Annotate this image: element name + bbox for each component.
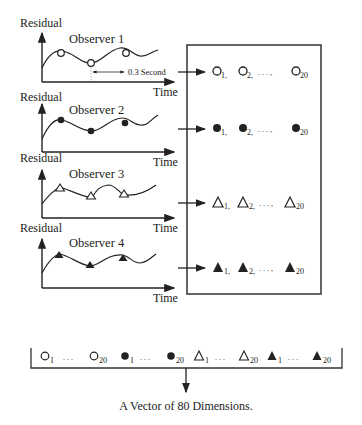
x-axis-label: Time: [153, 221, 178, 235]
subscript: 20: [99, 356, 107, 365]
box-row-filled-circles: 1, 2, . . . , 20: [213, 124, 308, 137]
x-axis-label: Time: [153, 291, 178, 305]
y-axis-label: Residual: [20, 151, 63, 165]
observer-1-plot: Residual Observer 1 0.3 Second Time: [20, 16, 178, 99]
subscript: 1,: [221, 128, 227, 137]
open-triangle-icon: [213, 197, 223, 207]
filled-circle-icon: [88, 128, 95, 135]
filled-circle-icon: [239, 124, 247, 132]
open-circle-icon: [90, 352, 98, 360]
ellipsis: . . . ,: [259, 199, 273, 208]
open-triangle-icon: [285, 197, 295, 207]
subscript: 20: [323, 356, 331, 365]
subscript: 20: [296, 202, 304, 211]
subscript: 2,: [249, 202, 255, 211]
subscript: 1,: [224, 267, 230, 276]
observer-title: Observer 3: [69, 167, 124, 181]
filled-triangle-icon: [213, 262, 223, 272]
subscript: 20: [296, 267, 304, 276]
filled-circle-icon: [122, 120, 129, 127]
feature-vector-diagram: Residual Observer 1 0.3 Second Time Resi…: [0, 0, 362, 425]
ellipsis: . . .: [288, 353, 298, 362]
filled-triangle-icon: [238, 262, 248, 272]
filled-circle-icon: [167, 352, 175, 360]
ellipsis: . . .: [215, 353, 225, 362]
subscript: 2,: [247, 71, 253, 80]
y-axis-label: Residual: [20, 90, 63, 104]
ellipsis: . . . ,: [259, 264, 273, 273]
filled-circle-icon: [58, 117, 65, 124]
subscript: 1: [205, 356, 209, 365]
filled-circle-icon: [121, 352, 129, 360]
open-circle-icon: [88, 60, 95, 67]
observer-title: Observer 1: [69, 32, 124, 46]
ellipsis: . . .: [140, 353, 150, 362]
filled-triangle-icon: [86, 261, 95, 268]
filled-triangle-icon: [285, 262, 295, 272]
subscript: 20: [176, 356, 184, 365]
box-row-open-circles: 1, 2, . . . , 20: [213, 67, 308, 80]
open-circle-icon: [239, 67, 247, 75]
box-row-filled-triangles: 1, 2, . . . , 20: [213, 262, 304, 276]
filled-circle-icon: [213, 124, 221, 132]
open-triangle-icon: [240, 351, 249, 360]
observer-title: Observer 4: [69, 236, 125, 250]
subscript: 1: [130, 356, 134, 365]
open-circle-icon: [123, 50, 130, 57]
subscript: 1: [278, 356, 282, 365]
y-axis-label: Residual: [20, 16, 63, 30]
subscript: 2,: [249, 267, 255, 276]
observer-title: Observer 2: [69, 103, 124, 117]
interval-label: 0.3 Second: [128, 67, 167, 77]
subscript: 2,: [247, 128, 253, 137]
subscript: 1,: [221, 71, 227, 80]
subscript: 20: [250, 356, 258, 365]
ellipsis: . . . ,: [258, 68, 272, 77]
subscript: 20: [300, 71, 308, 80]
open-circle-icon: [213, 67, 221, 75]
y-axis-label: Residual: [20, 221, 63, 235]
x-axis-label: Time: [153, 85, 178, 99]
subscript: 20: [300, 128, 308, 137]
filled-triangle-icon: [268, 351, 277, 360]
open-circle-icon: [292, 67, 300, 75]
open-circle-icon: [41, 352, 49, 360]
x-axis-label: Time: [153, 155, 178, 169]
filled-circle-icon: [292, 124, 300, 132]
feature-box: [187, 45, 321, 294]
open-triangle-icon: [238, 197, 248, 207]
filled-triangle-icon: [313, 351, 322, 360]
open-triangle-icon: [195, 351, 204, 360]
ellipsis: . . .: [63, 353, 73, 362]
subscript: 1: [50, 356, 54, 365]
vector-caption: A Vector of 80 Dimensions.: [119, 399, 252, 413]
box-row-open-triangles: 1, 2, . . . , 20: [213, 197, 304, 211]
subscript: 1,: [224, 202, 230, 211]
ellipsis: . . . ,: [258, 125, 272, 134]
open-circle-icon: [58, 50, 65, 57]
vector-content: 1 . . . 20 1 . . . 20 1 . . . 20 1 . . .…: [41, 351, 331, 365]
